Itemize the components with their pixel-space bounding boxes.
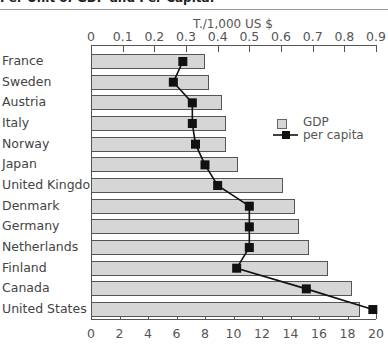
per-capita-marker xyxy=(213,181,222,190)
per-capita-marker xyxy=(245,202,254,211)
per-capita-marker xyxy=(188,98,197,107)
legend-per-capita-label: per capita xyxy=(303,128,364,142)
per-capita-marker xyxy=(169,78,178,87)
per-capita-marker xyxy=(232,264,241,273)
per-capita-marker xyxy=(245,222,254,231)
per-capita-marker xyxy=(188,119,197,128)
per-capita-marker xyxy=(302,284,311,293)
per-capita-marker xyxy=(245,243,254,252)
per-capita-marker xyxy=(201,160,210,169)
per-capita-marker xyxy=(178,57,187,66)
legend-gdp-label: GDP xyxy=(303,115,329,129)
legend-gdp-swatch xyxy=(277,119,287,129)
per-capita-marker xyxy=(368,305,377,314)
per-capita-line xyxy=(0,0,388,350)
per-capita-marker xyxy=(191,140,200,149)
